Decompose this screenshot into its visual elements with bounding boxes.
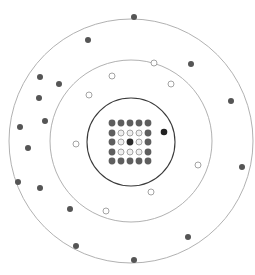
grid-center-dot	[127, 139, 134, 146]
grid-filled-dot	[145, 139, 152, 146]
grid-open-dot	[118, 130, 124, 136]
center-dot-grid	[109, 120, 152, 165]
filled-dot	[239, 164, 245, 170]
filled-dot	[15, 179, 21, 185]
inner-ring-dark-dots	[161, 129, 168, 136]
filled-dot	[228, 98, 234, 104]
open-dot	[86, 92, 92, 98]
filled-dot	[188, 61, 194, 67]
filled-dot	[56, 81, 62, 87]
dark-dot	[161, 129, 168, 136]
open-dot	[195, 162, 201, 168]
filled-dot	[131, 14, 137, 20]
filled-dot	[73, 243, 79, 249]
open-dot	[151, 60, 157, 66]
grid-open-dot	[118, 139, 124, 145]
grid-open-dot	[127, 149, 133, 155]
grid-filled-dot	[109, 149, 116, 156]
grid-filled-dot	[145, 149, 152, 156]
grid-open-dot	[136, 130, 142, 136]
grid-filled-dot	[145, 158, 152, 165]
filled-dot	[25, 145, 31, 151]
grid-open-dot	[127, 130, 133, 136]
grid-filled-dot	[118, 158, 125, 165]
middle-ring-open-dots	[73, 60, 201, 214]
grid-filled-dot	[145, 130, 152, 137]
filled-dot	[185, 234, 191, 240]
grid-filled-dot	[109, 120, 116, 127]
filled-dot	[131, 257, 137, 263]
concentric-rings-diagram	[0, 0, 255, 275]
filled-dot	[37, 74, 43, 80]
grid-filled-dot	[109, 130, 116, 137]
grid-open-dot	[136, 139, 142, 145]
grid-filled-dot	[109, 139, 116, 146]
grid-filled-dot	[118, 120, 125, 127]
open-dot	[148, 189, 154, 195]
filled-dot	[36, 95, 42, 101]
grid-filled-dot	[136, 120, 143, 127]
open-dot	[168, 81, 174, 87]
grid-filled-dot	[136, 158, 143, 165]
outer-ring-dots	[15, 14, 245, 263]
grid-filled-dot	[127, 120, 134, 127]
grid-filled-dot	[109, 158, 116, 165]
filled-dot	[37, 185, 43, 191]
filled-dot	[42, 118, 48, 124]
filled-dot	[17, 124, 23, 130]
open-dot	[103, 208, 109, 214]
filled-dot	[85, 37, 91, 43]
open-dot	[73, 141, 79, 147]
grid-open-dot	[136, 149, 142, 155]
grid-filled-dot	[127, 158, 134, 165]
filled-dot	[67, 206, 73, 212]
grid-open-dot	[118, 149, 124, 155]
open-dot	[109, 73, 115, 79]
grid-filled-dot	[145, 120, 152, 127]
